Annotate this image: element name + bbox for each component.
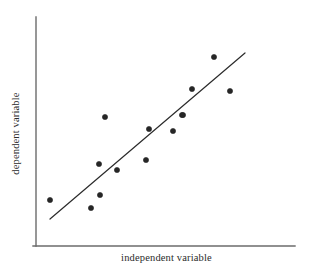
data-point [211,54,216,59]
scatter-plot-figure: independent variable dependent variable [0,0,311,268]
data-point [143,157,148,162]
axes-group [33,17,295,246]
data-point [114,167,119,172]
data-point [180,112,185,117]
data-point [96,161,101,166]
regression-line [50,53,245,219]
y-axis-label: dependent variable [10,74,21,194]
data-point [146,126,151,131]
data-point [102,114,107,119]
plot-canvas [0,0,311,268]
data-point [227,88,232,93]
data-point [88,205,93,210]
x-axis-label: independent variable [0,252,311,263]
data-point [47,197,52,202]
data-point [97,192,102,197]
data-point [189,86,194,91]
data-points-group [47,54,232,210]
data-point [170,128,175,133]
trend-line [50,53,245,219]
